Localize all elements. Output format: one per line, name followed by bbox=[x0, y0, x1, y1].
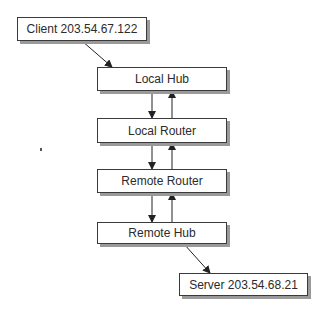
server-node: Server 203.54.68.21 bbox=[179, 273, 308, 296]
remote-router-node: Remote Router bbox=[97, 169, 227, 193]
remote-router-label: Remote Router bbox=[121, 174, 202, 188]
local-router-label: Local Router bbox=[128, 124, 196, 138]
stray-dot bbox=[40, 148, 42, 151]
local-router-node: Local Router bbox=[97, 118, 227, 143]
local-hub-node: Local Hub bbox=[97, 67, 227, 91]
local-hub-label: Local Hub bbox=[135, 72, 189, 86]
server-label: Server 203.54.68.21 bbox=[189, 278, 298, 292]
remote-hub-node: Remote Hub bbox=[97, 222, 227, 244]
arrow-client-to-local-hub bbox=[82, 41, 112, 67]
connector-layer bbox=[0, 0, 328, 310]
client-node: Client 203.54.67.122 bbox=[17, 17, 147, 41]
arrow-remote-hub-to-server bbox=[184, 244, 210, 273]
remote-hub-label: Remote Hub bbox=[128, 226, 195, 240]
client-label: Client 203.54.67.122 bbox=[27, 22, 138, 36]
